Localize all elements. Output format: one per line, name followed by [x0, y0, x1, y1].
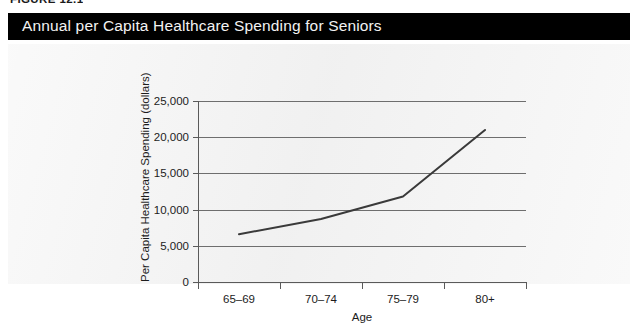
x-axis-title: Age	[198, 311, 526, 323]
x-tick-label: 65–69	[223, 293, 255, 305]
x-tick-label: 80+	[475, 293, 495, 305]
x-tick-mark	[362, 282, 363, 289]
series-polyline	[239, 130, 485, 234]
y-tick-label: 15,000	[154, 167, 189, 179]
y-tick-label: 10,000	[154, 204, 189, 216]
y-tick-label: 0	[183, 276, 189, 288]
x-tick-label: 75–79	[387, 293, 419, 305]
x-tick-mark	[198, 282, 199, 289]
x-tick-label: 70–74	[305, 293, 337, 305]
x-tick-mark	[280, 282, 281, 289]
y-axis-title: Per Capita Healthcare Spending (dollars)	[139, 101, 153, 282]
x-tick-mark	[444, 282, 445, 289]
chart-panel: Per Capita Healthcare Spending (dollars)…	[8, 44, 630, 284]
y-tick-label: 25,000	[154, 95, 189, 107]
chart-title-banner: Annual per Capita Healthcare Spending fo…	[8, 13, 630, 40]
figure-number-label: FIGURE 12.1	[10, 0, 83, 7]
y-tick-label: 20,000	[154, 131, 189, 143]
y-tick-label: 5,000	[160, 240, 189, 252]
plot-area: 05,00010,00015,00020,00025,000 65–6970–7…	[198, 101, 526, 282]
series-line-chart	[198, 101, 526, 283]
x-tick-mark	[526, 282, 527, 289]
chart-title: Annual per Capita Healthcare Spending fo…	[22, 17, 382, 35]
